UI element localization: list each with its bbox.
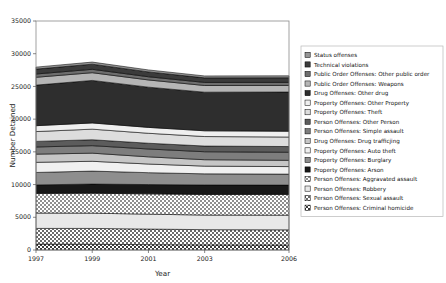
x-axis-label: Year — [154, 269, 170, 278]
y-tick-label: 0 — [27, 246, 31, 253]
legend-label: Drug Offenses: Drug trafficjing — [314, 138, 400, 145]
legend-item[interactable]: Property Offenses: Auto theft — [305, 148, 396, 155]
legend-label: Status offenses — [314, 52, 357, 58]
legend-swatch-icon — [305, 81, 310, 86]
legend-item[interactable]: Drug Offenses: Drug trafficjing — [305, 138, 400, 145]
legend-label: Public Order Offenses: Other public orde… — [314, 71, 430, 78]
y-axis-label: Number Detained — [8, 104, 17, 168]
legend-item[interactable]: Person Offenses: Criminal homicide — [305, 205, 414, 211]
chart-legend: Status offensesTechnical violationsPubli… — [301, 46, 443, 216]
legend-label: Property Offenses: Theft — [314, 109, 383, 116]
x-tick-label: 2006 — [281, 255, 297, 262]
legend-item[interactable]: Property Offenses: Other Property — [305, 100, 410, 107]
legend-swatch-icon — [305, 205, 310, 210]
y-tick-label: 30000 — [11, 50, 31, 57]
legend-swatch-icon — [305, 62, 310, 67]
area-series-3 — [36, 193, 289, 215]
legend-item[interactable]: Technical violations — [305, 62, 368, 68]
legend-label: Property Offenses: Auto theft — [314, 148, 396, 155]
legend-swatch-icon — [305, 196, 310, 201]
legend-swatch-icon — [305, 110, 310, 115]
x-tick-label: 2003 — [197, 255, 213, 262]
legend-swatch-icon — [305, 167, 310, 172]
x-tick-label: 1999 — [84, 255, 100, 262]
legend-item[interactable]: Public Order Offenses: Weapons — [305, 81, 404, 88]
y-tick-label: 10000 — [11, 181, 31, 188]
legend-swatch-icon — [305, 91, 310, 96]
legend-swatch-icon — [305, 100, 310, 105]
legend-label: Drug Offenses: Other drug — [314, 90, 389, 97]
legend-item[interactable]: Person Offenses: Sexual assault — [305, 195, 404, 201]
legend-swatch-icon — [305, 157, 310, 162]
legend-item[interactable]: Property Offenses: Arson — [305, 167, 384, 174]
legend-label: Public Order Offenses: Weapons — [314, 81, 404, 88]
legend-label: Property Offenses: Other Property — [314, 100, 410, 107]
legend-item[interactable]: Person Offenses: Aggravated assault — [305, 176, 418, 183]
area-series-4 — [36, 184, 289, 194]
legend-label: Technical violations — [313, 62, 368, 68]
x-tick-label: 2001 — [140, 255, 156, 262]
legend-swatch-icon — [305, 138, 310, 143]
legend-label: Person Offenses: Sexual assault — [314, 195, 404, 201]
legend-swatch-icon — [305, 148, 310, 153]
area-series-2 — [36, 213, 289, 230]
legend-swatch-icon — [305, 186, 310, 191]
legend-label: Person Offenses: Robbery — [314, 186, 387, 193]
y-tick-label: 25000 — [11, 83, 31, 90]
x-tick-label: 1997 — [28, 255, 44, 262]
legend-item[interactable]: Person Offenses: Simple assault — [305, 128, 404, 135]
y-tick-label: 5000 — [15, 213, 31, 220]
legend-label: Property Offenses: Burglary — [314, 157, 392, 164]
y-tick-label: 35000 — [11, 17, 31, 24]
legend-item[interactable]: Person Offenses: Other Person — [305, 119, 400, 125]
legend-label: Person Offenses: Other Person — [314, 119, 400, 125]
legend-label: Person Offenses: Simple assault — [314, 128, 404, 135]
legend-swatch-icon — [305, 119, 310, 124]
legend-item[interactable]: Person Offenses: Robbery — [305, 186, 387, 193]
legend-item[interactable]: Drug Offenses: Other drug — [305, 90, 389, 97]
plot-area — [36, 62, 289, 250]
area-series-1 — [36, 228, 289, 245]
stacked-area-chart: 05000100001500020000250003000035000 1997… — [0, 0, 446, 283]
legend-swatch-icon — [305, 71, 310, 76]
legend-label: Property Offenses: Arson — [314, 167, 384, 174]
legend-swatch-icon — [305, 52, 310, 57]
legend-item[interactable]: Property Offenses: Burglary — [305, 157, 392, 164]
legend-item[interactable]: Property Offenses: Theft — [305, 109, 383, 116]
legend-label: Person Offenses: Aggravated assault — [314, 176, 418, 183]
legend-swatch-icon — [305, 129, 310, 134]
legend-label: Person Offenses: Criminal homicide — [314, 205, 414, 211]
legend-item[interactable]: Public Order Offenses: Other public orde… — [305, 71, 430, 78]
legend-swatch-icon — [305, 176, 310, 181]
